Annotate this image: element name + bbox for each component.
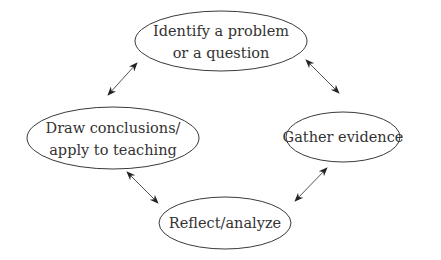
research-cycle-diagram: Identify a problem or a question Gather … xyxy=(0,0,441,260)
node-identify-line-1: Identify a problem xyxy=(153,23,289,39)
node-identify-line-2: or a question xyxy=(173,45,270,61)
node-conclude-line-1: Draw conclusions/ xyxy=(46,120,181,136)
node-gather-label: Gather evidence xyxy=(283,129,404,145)
node-reflect-label: Reflect/analyze xyxy=(169,215,281,231)
node-identify: Identify a problem or a question xyxy=(135,11,307,71)
arrow-reflect-conclude xyxy=(127,172,158,203)
arrow-gather-reflect xyxy=(295,168,327,201)
arrow-conclude-identify xyxy=(108,63,137,95)
node-conclude-line-2: apply to teaching xyxy=(49,142,177,158)
node-conclude: Draw conclusions/ apply to teaching xyxy=(27,107,199,169)
node-reflect: Reflect/analyze xyxy=(159,197,291,249)
arrow-identify-gather xyxy=(306,60,339,93)
node-gather: Gather evidence xyxy=(283,112,404,162)
